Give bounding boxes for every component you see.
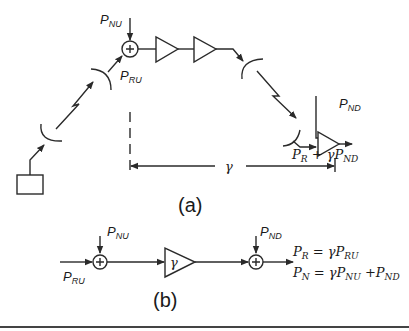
label-pnu-a: PNU: [100, 12, 122, 29]
amplifier-2-icon: [194, 37, 216, 62]
part-b: PNU PRU PND γ PR = γPRU PN = γPNU +PND (…: [60, 224, 400, 311]
caption-b: (b): [153, 289, 177, 311]
uplink-feed-arrow: [30, 145, 44, 175]
link-budget-diagram: PNU PRU PND PR + γPND γ (a) PNU PRU PND …: [0, 0, 409, 331]
label-gain: γ: [170, 255, 178, 270]
satellite-transmit-dish-icon: [242, 59, 263, 79]
receive-dish-icon: [283, 130, 300, 146]
ground-terminal-icon: [17, 175, 43, 194]
equation-pn: PN = γPNU +PND: [292, 265, 400, 282]
label-output-expr: PR + γPND: [291, 147, 358, 164]
label-pru-a: PRU: [120, 68, 142, 85]
label-pnd-b: PND: [260, 224, 282, 241]
label-pnd-a: PND: [339, 96, 361, 113]
bottom-divider: [0, 326, 409, 328]
caption-a: (a): [178, 194, 202, 216]
label-gamma-distance: γ: [225, 159, 233, 174]
downlink-lightning-icon: [257, 71, 296, 118]
uplink-lightning-icon: [56, 82, 93, 129]
satellite-receive-dish-icon: [91, 69, 111, 90]
part-a: PNU PRU PND PR + γPND γ (a): [17, 12, 361, 216]
equation-pr: PR = γPRU: [292, 244, 359, 261]
label-pru-b: PRU: [63, 269, 85, 286]
label-pnu-b: PNU: [107, 224, 129, 241]
amplifier-1-icon: [156, 37, 178, 62]
